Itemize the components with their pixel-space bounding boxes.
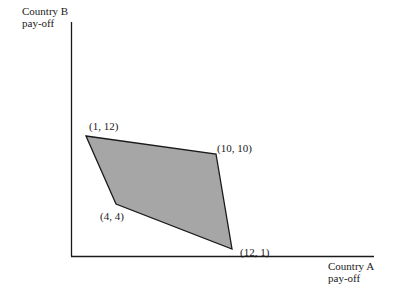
x-axis-label: Country A pay-off [328,260,374,284]
payoff-region [86,136,232,249]
point-label-4-4: (4, 4) [100,210,124,222]
x-axis-label-line2: pay-off [328,272,374,284]
point-label-1-12: (1, 12) [89,120,118,132]
y-axis-label: Country B pay-off [22,5,68,29]
y-axis-label-line2: pay-off [22,17,68,29]
y-axis-label-line1: Country B [22,5,68,17]
point-label-10-10: (10, 10) [217,142,252,154]
point-label-12-1: (12, 1) [240,246,269,258]
x-axis-label-line1: Country A [328,260,374,272]
